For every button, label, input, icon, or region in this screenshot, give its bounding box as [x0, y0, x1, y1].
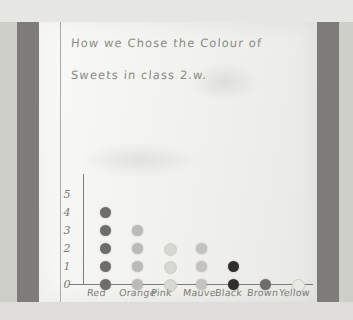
photo-top-border: [0, 0, 353, 22]
x-label-black: Black: [214, 287, 242, 298]
sweet-dot: [132, 225, 143, 236]
y-tick-2: 2: [57, 242, 77, 255]
dot-column-brown: [253, 192, 279, 302]
sweet-dot: [228, 261, 239, 272]
x-label-brown: Brown: [246, 287, 278, 298]
y-tick-0: 0: [57, 278, 77, 291]
sweet-dot: [196, 243, 207, 254]
y-tick-5: 5: [57, 188, 77, 201]
y-tick-1: 1: [57, 260, 77, 273]
sweet-dot: [100, 261, 111, 272]
x-label-pink: Pink: [150, 287, 172, 298]
title-line-2: Sweets in class 2.w.: [70, 60, 304, 90]
chart-title: How we Chose the Colour of Sweets in cla…: [71, 28, 303, 90]
sweet-dot: [100, 225, 111, 236]
sweet-dot: [100, 243, 111, 254]
dot-column-red: [93, 192, 119, 302]
photograph-of-chart: How we Chose the Colour of Sweets in cla…: [0, 0, 353, 320]
sweet-dot: [132, 243, 143, 254]
sweet-dot: [132, 261, 143, 272]
sweet-dot: [196, 261, 207, 272]
dot-column-yellow: [285, 192, 311, 302]
sweet-dot: [164, 243, 177, 256]
y-tick-3: 3: [57, 224, 77, 237]
sweet-dot: [164, 261, 177, 274]
photo-left-border-strip: [17, 22, 39, 302]
y-axis-line: [83, 174, 84, 284]
dot-column-mauve: [189, 192, 215, 302]
photo-bottom-border: [0, 302, 353, 320]
x-label-red: Red: [86, 287, 106, 298]
x-label-yellow: Yellow: [278, 287, 310, 298]
y-tick-4: 4: [57, 206, 77, 219]
x-label-mauve: Mauve: [182, 287, 216, 298]
photo-right-border-strip: [317, 22, 339, 302]
dot-column-black: [221, 192, 247, 302]
dot-column-orange: [125, 192, 151, 302]
title-line-1: How we Chose the Colour of: [70, 28, 304, 58]
paper-smudge: [79, 142, 199, 178]
sweet-dot: [100, 207, 111, 218]
paper-page: How we Chose the Colour of Sweets in cla…: [39, 22, 317, 302]
dot-column-pink: [157, 192, 183, 302]
pictogram-chart: 012345 RedOrangePinkMauveBlackBrownYello…: [49, 174, 317, 302]
